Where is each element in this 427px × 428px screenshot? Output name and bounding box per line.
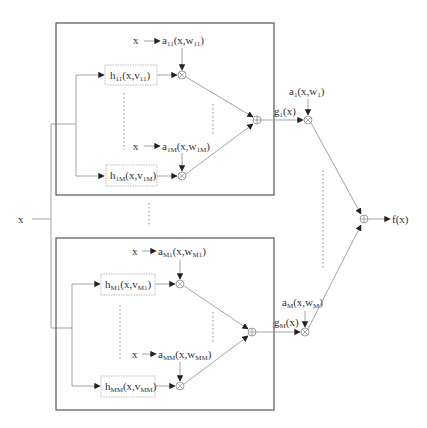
multiply-node-11 <box>178 71 186 79</box>
svg-text:aM1(x,wM1): aM1(x,wM1) <box>158 245 206 259</box>
svg-text:x: x <box>133 140 139 152</box>
svg-text:aMM(x,wMM): aMM(x,wMM) <box>158 348 212 362</box>
expert-h11: h11(x,v11) <box>105 65 157 85</box>
multiply-node-M1 <box>176 280 184 288</box>
svg-text:a1(x,w1): a1(x,w1) <box>289 85 325 99</box>
svg-text:x: x <box>133 34 139 46</box>
sum-node-g1 <box>253 116 261 124</box>
expert-hMM: hMM(x,vMM) <box>101 376 157 397</box>
svg-text:aM(x,wM): aM(x,wM) <box>282 296 323 310</box>
group-1-frame <box>56 23 274 195</box>
g1-label: g1(x) <box>274 105 296 119</box>
sum-node-gM <box>248 328 256 336</box>
svg-text:x: x <box>132 245 138 257</box>
output-label: f(x) <box>392 213 409 226</box>
gate-aM1: x aM1(x,wM1) <box>132 245 206 279</box>
svg-text:a1M(x,w1M): a1M(x,w1M) <box>162 140 210 154</box>
input-label: x <box>18 213 24 225</box>
multiply-node-1M <box>178 172 186 180</box>
multiply-node-g1 <box>304 116 312 124</box>
multiply-node-MM <box>176 382 184 390</box>
gM-label: gM(x) <box>274 316 299 330</box>
svg-text:a11(x,w11): a11(x,w11) <box>162 34 204 48</box>
expert-h1M: h1M(x,v1M) <box>106 165 157 186</box>
sum-node-final <box>360 215 368 223</box>
svg-text:x: x <box>132 348 138 360</box>
moe-diagram: x h11(x,v11) x a11(x,w11) h1M(x,v1M) <box>0 0 427 428</box>
multiply-node-gM <box>301 328 309 336</box>
expert-hM1: hM1(x,vM1) <box>101 274 155 295</box>
